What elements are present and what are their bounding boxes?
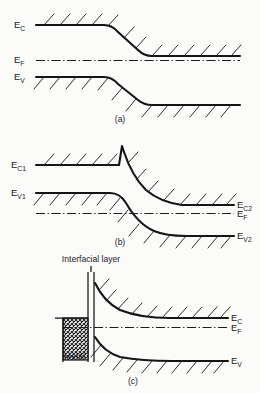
- valence-band-hatching-b: [34, 193, 231, 248]
- label-valence-band-2-b: EV2: [237, 230, 252, 243]
- label-conduction-band-1-b: EC1: [11, 159, 26, 172]
- panel-b: EC1 EV1 EC2 EF EV2 (b): [11, 146, 252, 248]
- valence-band-hatching-c: [91, 345, 224, 373]
- panel-c: EC EF EV Interfacial layer Metal (c): [55, 254, 242, 386]
- caption-panel-c: (c): [128, 376, 138, 386]
- label-conduction-band-a: EC: [14, 19, 25, 32]
- valence-band-curve-a: [36, 77, 240, 105]
- panel-a: EC EF EV (a): [14, 14, 241, 124]
- caption-panel-b: (b): [115, 237, 126, 247]
- conduction-band-curve-a: [36, 25, 240, 56]
- conduction-band-hatching-c: [99, 279, 230, 318]
- metal-region-label: Metal: [64, 351, 85, 361]
- conduction-band-hatching-a: [44, 14, 241, 56]
- label-valence-band-c: EV: [231, 355, 242, 368]
- caption-panel-a: (a): [115, 114, 126, 124]
- label-fermi-level-a: EF: [14, 54, 25, 67]
- valence-band-curve-b: [36, 193, 234, 236]
- valence-band-curve-c: [95, 337, 228, 361]
- valence-band-hatching-a: [34, 77, 231, 117]
- band-diagram-figure: EC EF EV (a): [0, 0, 260, 393]
- label-valence-band-1-b: EV1: [11, 187, 26, 200]
- conduction-band-curve-c: [95, 283, 228, 318]
- label-valence-band-a: EV: [14, 71, 25, 84]
- figure-canvas: EC EF EV (a): [0, 0, 260, 393]
- interfacial-layer-label: Interfacial layer: [62, 254, 120, 264]
